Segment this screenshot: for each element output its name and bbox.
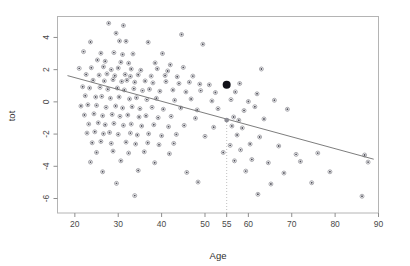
data-point	[199, 83, 201, 85]
data-point	[112, 79, 114, 81]
y-tick-label: -4	[42, 162, 52, 170]
plot-canvas: 203040505560708090 420-2-4-6 Age tot	[0, 0, 410, 266]
data-point	[168, 126, 170, 128]
data-point	[120, 160, 122, 162]
data-point	[194, 117, 196, 119]
data-point	[96, 59, 98, 61]
data-point	[132, 53, 134, 55]
data-point	[174, 99, 176, 101]
data-point	[114, 75, 116, 77]
data-point	[117, 133, 119, 135]
data-point	[364, 154, 366, 156]
data-point	[103, 133, 105, 135]
data-point	[105, 106, 107, 108]
data-point	[103, 80, 105, 82]
data-point	[176, 76, 178, 78]
data-point	[95, 96, 97, 98]
data-point	[89, 87, 91, 89]
data-point	[188, 81, 190, 83]
data-point	[162, 108, 164, 110]
data-point	[130, 68, 132, 70]
data-point	[82, 86, 84, 88]
data-point	[109, 132, 111, 134]
data-point	[140, 69, 142, 71]
data-point	[125, 141, 127, 143]
data-point	[139, 108, 141, 110]
data-point	[80, 105, 82, 107]
x-tick-label: 80	[330, 219, 340, 229]
data-point	[192, 75, 194, 77]
data-point	[86, 132, 88, 134]
x-tick-label: 90	[374, 219, 384, 229]
x-tick-label: 30	[113, 219, 123, 229]
data-point	[153, 124, 155, 126]
data-point	[152, 82, 154, 84]
y-tick-label: 0	[42, 99, 52, 104]
data-point	[113, 52, 115, 54]
data-point	[145, 115, 147, 117]
data-point	[126, 79, 128, 81]
data-point	[158, 144, 160, 146]
y-tick-label: 4	[42, 35, 52, 40]
data-point	[254, 106, 256, 108]
data-point	[239, 83, 241, 85]
data-point	[161, 135, 163, 137]
data-point	[214, 92, 216, 94]
data-point	[213, 126, 215, 128]
fitted-value-point	[224, 118, 229, 123]
y-tick-label: -6	[42, 194, 52, 202]
data-point	[169, 64, 171, 66]
data-point	[110, 142, 112, 144]
data-point	[134, 195, 136, 197]
data-point	[135, 143, 137, 145]
data-point	[278, 145, 280, 147]
data-point	[109, 97, 111, 99]
data-point	[122, 25, 124, 27]
data-point	[133, 88, 135, 90]
data-point	[183, 124, 185, 126]
data-point	[167, 70, 169, 72]
data-point	[137, 74, 139, 76]
data-point	[104, 124, 106, 126]
data-point	[259, 136, 261, 138]
data-point	[186, 171, 188, 173]
data-point	[162, 53, 164, 55]
data-point	[128, 152, 130, 154]
regression-line-layer	[67, 76, 373, 160]
data-point	[102, 171, 104, 173]
data-point	[180, 107, 182, 109]
data-point	[172, 89, 174, 91]
data-point	[85, 74, 87, 76]
data-point	[122, 107, 124, 109]
data-point	[112, 150, 114, 152]
data-point	[135, 97, 137, 99]
data-point	[103, 66, 105, 68]
data-point	[251, 159, 253, 161]
data-point	[83, 51, 85, 53]
data-point	[240, 149, 242, 151]
data-point	[178, 83, 180, 85]
data-point	[115, 32, 117, 34]
data-point	[204, 135, 206, 137]
data-point	[92, 79, 94, 81]
data-point	[128, 62, 130, 64]
data-point	[150, 75, 152, 77]
data-point	[147, 142, 149, 144]
data-point	[84, 95, 86, 97]
data-point	[164, 75, 166, 77]
data-point	[217, 108, 219, 110]
data-point	[211, 100, 213, 102]
data-point	[111, 113, 113, 115]
data-point	[127, 114, 129, 116]
data-point	[367, 161, 369, 163]
data-point	[113, 122, 115, 124]
data-point	[106, 73, 108, 75]
data-point	[104, 60, 106, 62]
data-point	[231, 125, 233, 127]
data-point	[117, 67, 119, 69]
data-point	[96, 104, 98, 106]
data-point	[234, 160, 236, 162]
x-tick-label: 20	[70, 219, 80, 229]
data-point	[118, 96, 120, 98]
y-tick-label: -2	[42, 130, 52, 138]
